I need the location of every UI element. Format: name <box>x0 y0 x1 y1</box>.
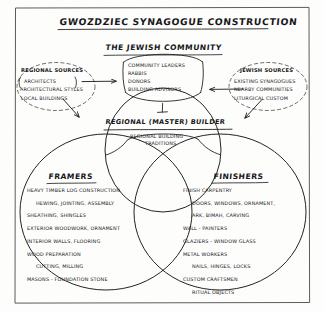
list-item: LOCAL BUILDINGS <box>21 96 68 101</box>
list-item: EXISTING SYNAGOGUES <box>234 79 295 84</box>
finishers-heading: FINISHERS <box>213 173 264 181</box>
list-item: BUILDING ADVISORS <box>128 87 181 92</box>
list-item: FINISH CARPENTRY <box>183 188 275 193</box>
list-item: MASONS - FOUNDATION STONE <box>27 277 120 282</box>
page-title: GWOZDZIEC SYNAGOGUE CONSTRUCTION <box>59 17 298 27</box>
list-item: GLAZIERS - WINDOW GLASS <box>183 239 275 244</box>
builder-note-line1: REGIONAL BUILDING <box>130 134 183 139</box>
list-item: CUTTING, MILLING <box>27 264 120 269</box>
left-to-builder-arrow <box>63 99 79 117</box>
list-item: NEARBY COMMUNITIES <box>234 87 293 92</box>
list-item: DONORS <box>128 79 151 84</box>
builder-heading: REGIONAL (MASTER) BUILDER <box>105 119 226 126</box>
title-underline <box>58 29 268 30</box>
builder-underline <box>104 129 232 130</box>
left-cluster-heading: REGIONAL SOURCES <box>21 68 83 73</box>
framers-heading: FRAMERS <box>48 173 93 181</box>
list-item: ARCHITECTS <box>24 79 56 84</box>
community-heading: THE JEWISH COMMUNITY <box>105 44 222 52</box>
diagram-canvas: GWOZDZIEC SYNAGOGUE CONSTRUCTION THE JEW… <box>0 0 324 311</box>
list-item: RABBIS <box>128 71 147 76</box>
list-item: ARCHITECTURAL STYLES <box>20 87 83 92</box>
builder-note-line2: TRADITIONS <box>145 141 176 146</box>
list-item: RITUAL OBJECTS <box>183 290 275 295</box>
list-item: LITURGICAL CUSTOM <box>234 96 288 101</box>
list-item: CUSTOM CRAFTSMEN <box>183 277 275 282</box>
community-underline <box>104 55 222 56</box>
list-item: WOOD PREPARATION <box>27 252 120 257</box>
list-item: ARK, BIMAH, CARVING <box>183 213 275 218</box>
list-item: HEWING, JOINTING, ASSEMBLY <box>27 201 120 206</box>
framers-list: HEAVY TIMBER LOG CONSTRUCTIONHEWING, JOI… <box>27 188 120 229</box>
list-item: EXTERIOR WOODWORK, ORNAMENT <box>27 226 120 231</box>
framers-underline <box>47 183 96 184</box>
paper-sheet: GWOZDZIEC SYNAGOGUE CONSTRUCTION THE JEW… <box>0 0 324 311</box>
list-item: DOORS, WINDOWS, ORNAMENT, <box>183 201 275 206</box>
finishers-underline <box>212 182 268 183</box>
right-cluster-heading: JEWISH SOURCES <box>240 68 293 73</box>
list-item: SHEATHING, SHINGLES <box>27 213 120 218</box>
list-item: HEAVY TIMBER LOG CONSTRUCTION <box>27 188 120 193</box>
finishers-list: FINISH CARPENTRYDOORS, WINDOWS, ORNAMENT… <box>183 188 275 234</box>
right-to-builder-arrow <box>245 100 262 119</box>
list-item: NAILS, HINGES, LOCKS <box>183 264 275 269</box>
list-item: WALL - PAINTERS <box>183 226 275 231</box>
list-item: COMMUNITY LEADERS <box>128 63 185 68</box>
list-item: METAL WORKERS <box>183 252 275 257</box>
list-item: INTERIOR WALLS, FLOORING <box>27 239 120 244</box>
